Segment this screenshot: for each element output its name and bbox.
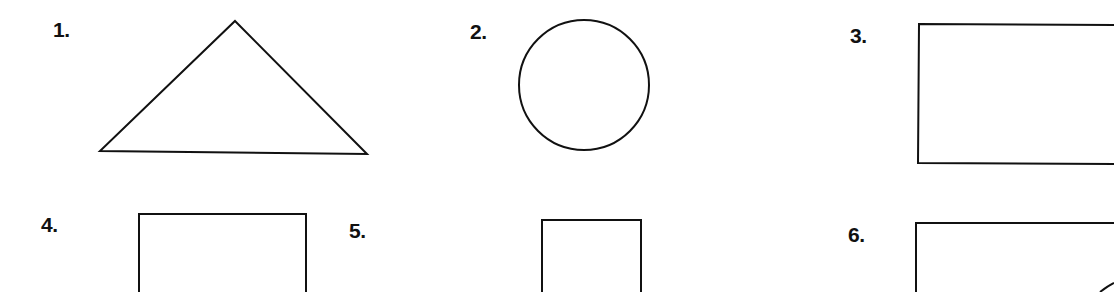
circle-shape	[519, 20, 649, 150]
rectangle-shape-6	[916, 223, 1114, 292]
square-shape-4	[139, 214, 306, 292]
rectangle-shape-3	[918, 24, 1114, 164]
rectangle-shape-5	[542, 220, 641, 292]
triangle-shape	[100, 21, 367, 154]
shapes-canvas	[0, 0, 1114, 292]
curve-shape-6	[1100, 283, 1114, 292]
